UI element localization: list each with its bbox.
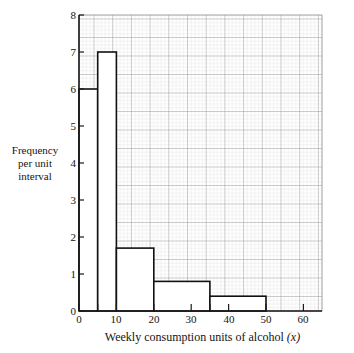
- x-tick-label-0: 0: [67, 314, 91, 324]
- y-tick-label-8: 8: [58, 10, 76, 20]
- y-tick-label-5: 5: [58, 121, 76, 131]
- bar-35-50: [210, 296, 266, 311]
- y-tick-label-2: 2: [58, 232, 76, 242]
- bar-5-10: [98, 52, 117, 311]
- x-tick-label-40: 40: [217, 314, 241, 324]
- bar-10-20: [116, 248, 153, 311]
- bar-20-35: [154, 281, 210, 311]
- x-axis-label-variable: (x): [287, 330, 300, 344]
- x-axis-label: Weekly consumption units of alcohol (x): [70, 330, 335, 345]
- y-tick-label-7: 7: [58, 47, 76, 57]
- x-tick-label-50: 50: [254, 314, 278, 324]
- x-tick-label-10: 10: [104, 314, 128, 324]
- y-tick-label-3: 3: [58, 195, 76, 205]
- y-tick-label-6: 6: [58, 84, 76, 94]
- x-tick-label-20: 20: [142, 314, 166, 324]
- plot-area: [0, 0, 354, 353]
- x-axis-label-text: Weekly consumption units of alcohol: [105, 330, 287, 344]
- y-tick-label-1: 1: [58, 269, 76, 279]
- x-tick-label-30: 30: [179, 314, 203, 324]
- x-tick-label-60: 60: [291, 314, 315, 324]
- y-tick-label-4: 4: [58, 158, 76, 168]
- histogram-figure: Frequency per unit interval: [0, 0, 354, 353]
